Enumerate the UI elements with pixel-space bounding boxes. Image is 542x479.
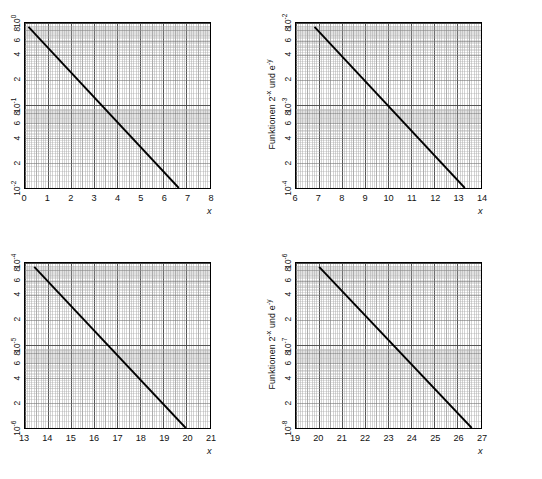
xtick-label: 11 xyxy=(401,194,423,203)
xtick-label: 6 xyxy=(153,194,175,203)
ytick-label: 6 xyxy=(284,275,292,284)
panel-top-left xyxy=(0,0,271,240)
xtick-label: 22 xyxy=(354,434,376,443)
ytick-label: 4 xyxy=(284,50,292,59)
ytick-label: 2 xyxy=(284,159,292,168)
xtick-label: 19 xyxy=(284,434,306,443)
grid-bottom-left xyxy=(25,263,210,428)
ytick-label: 4 xyxy=(13,290,21,299)
xtick-label: 20 xyxy=(307,434,329,443)
y-axis-title: Funktionen 2-x und e-y xyxy=(268,29,277,179)
ytick-label: 6 xyxy=(284,359,292,368)
ytick-label: 8 xyxy=(13,108,21,117)
ytick-label: 6 xyxy=(13,119,21,128)
ytick-label: 8 xyxy=(284,265,292,274)
grid-top-right xyxy=(296,23,481,188)
xtick-label: 27 xyxy=(471,434,493,443)
ytick-label: 8 xyxy=(13,25,21,34)
ytick-label: 4 xyxy=(13,133,21,142)
xtick-label: 26 xyxy=(448,434,470,443)
xtick-label: 16 xyxy=(83,434,105,443)
xtick-label: 21 xyxy=(200,434,222,443)
x-axis-title: x xyxy=(478,447,483,456)
ytick-label: 2 xyxy=(13,399,21,408)
ytick-label: 2 xyxy=(13,75,21,84)
xtick-label: 25 xyxy=(424,434,446,443)
x-axis-title: x xyxy=(207,447,212,456)
ytick-label: 4 xyxy=(284,373,292,382)
grid-bottom-right xyxy=(296,263,481,428)
xtick-label: 7 xyxy=(307,194,329,203)
xtick-label: 21 xyxy=(331,434,353,443)
ytick-label: 8 xyxy=(13,265,21,274)
xtick-label: 0 xyxy=(13,194,35,203)
ytick-label: 4 xyxy=(284,133,292,142)
xtick-label: 10 xyxy=(378,194,400,203)
ytick-label: 2 xyxy=(284,399,292,408)
plot-area-top-right xyxy=(295,22,482,189)
ytick-label: 8 xyxy=(284,25,292,34)
xtick-label: 13 xyxy=(13,434,35,443)
ytick-label: 8 xyxy=(13,348,21,357)
plot-area-bottom-right xyxy=(295,262,482,429)
xtick-label: 13 xyxy=(448,194,470,203)
xtick-label: 19 xyxy=(153,434,175,443)
xtick-label: 4 xyxy=(107,194,129,203)
xtick-label: 23 xyxy=(378,434,400,443)
xtick-label: 1 xyxy=(36,194,58,203)
ytick-label: 8 xyxy=(284,348,292,357)
ytick-label: 2 xyxy=(13,315,21,324)
figure-semilog-panels: 100864210-1864210-2012345678x10-2864210-… xyxy=(0,0,542,479)
xtick-label: 17 xyxy=(107,434,129,443)
x-axis-title: x xyxy=(478,207,483,216)
ytick-label: 4 xyxy=(13,373,21,382)
xtick-label: 20 xyxy=(177,434,199,443)
x-axis-title: x xyxy=(207,207,212,216)
ytick-label: 2 xyxy=(13,159,21,168)
ytick-label: 6 xyxy=(284,35,292,44)
panel-top-right xyxy=(271,0,542,240)
xtick-label: 12 xyxy=(424,194,446,203)
ytick-label: 2 xyxy=(284,315,292,324)
ytick-label: 4 xyxy=(284,290,292,299)
y-axis-title: Funktionen 2-x und e-y xyxy=(268,269,277,419)
xtick-label: 15 xyxy=(60,434,82,443)
xtick-label: 9 xyxy=(354,194,376,203)
ytick-label: 6 xyxy=(13,359,21,368)
ytick-label: 6 xyxy=(13,275,21,284)
ytick-label: 6 xyxy=(13,35,21,44)
xtick-label: 3 xyxy=(83,194,105,203)
xtick-label: 7 xyxy=(177,194,199,203)
ytick-label: 4 xyxy=(13,50,21,59)
ytick-label: 2 xyxy=(284,75,292,84)
xtick-label: 6 xyxy=(284,194,306,203)
xtick-label: 24 xyxy=(401,434,423,443)
xtick-label: 8 xyxy=(200,194,222,203)
ytick-label: 6 xyxy=(284,119,292,128)
xtick-label: 14 xyxy=(36,434,58,443)
plot-area-bottom-left xyxy=(24,262,211,429)
xtick-label: 8 xyxy=(331,194,353,203)
plot-area-top-left xyxy=(24,22,211,189)
xtick-label: 14 xyxy=(471,194,493,203)
xtick-label: 18 xyxy=(130,434,152,443)
ytick-label: 8 xyxy=(284,108,292,117)
xtick-label: 2 xyxy=(60,194,82,203)
xtick-label: 5 xyxy=(130,194,152,203)
grid-top-left xyxy=(25,23,210,188)
